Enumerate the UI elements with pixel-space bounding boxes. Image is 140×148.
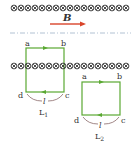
field-row-middle [11,63,129,69]
loop2-corner-a: a [82,72,87,81]
current-arrow-icon [99,80,104,84]
current-arrow-icon [41,90,46,94]
loop2-name: L2 [95,132,104,142]
loop2-length-label: l [99,121,102,130]
current-arrow-icon [97,113,102,117]
field-label: B [62,12,71,23]
loop1-length-label: l [43,97,46,106]
loop2-corner-d: d [74,116,79,125]
loop1-corner-d: d [18,91,23,100]
field-row-top [11,5,129,11]
loop1-corner-c: c [65,91,70,100]
current-arrow-icon [43,46,48,50]
loop2-corner-c: c [121,116,126,125]
loop-l1 [26,46,64,94]
loop1-name: L1 [39,108,48,118]
loop2-corner-b: b [117,72,122,81]
loop-l2 [82,80,120,117]
loop1-corner-b: b [61,39,66,48]
loop1-corner-a: a [25,39,30,48]
magnetic-field-loops-diagram: B a b d c l L1 a b d c l L2 [0,0,140,148]
